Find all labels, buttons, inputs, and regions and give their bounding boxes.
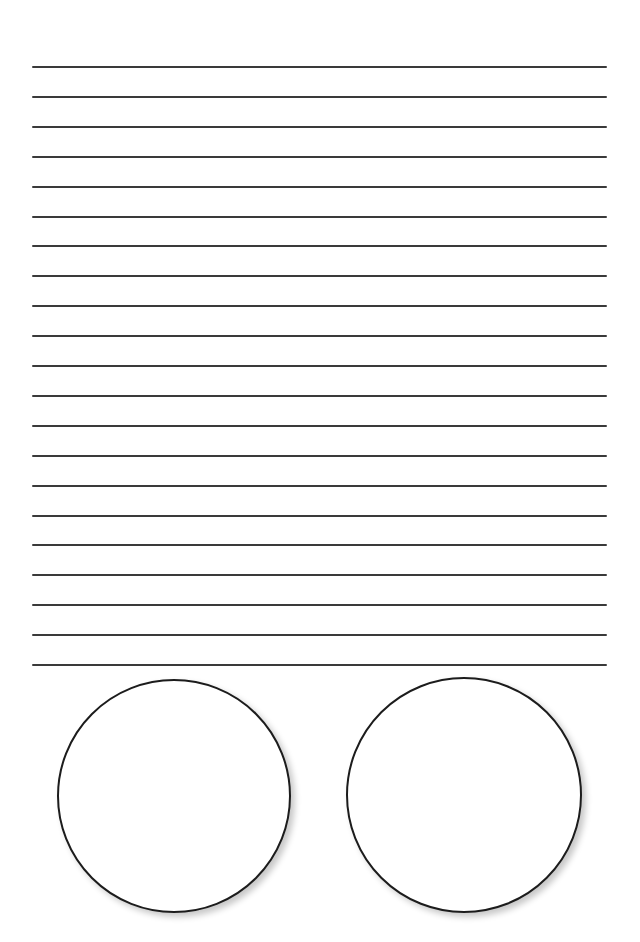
ruled-line xyxy=(32,664,607,666)
ruled-line xyxy=(32,275,607,277)
ruled-line xyxy=(32,156,607,158)
ruled-line xyxy=(32,574,607,576)
ruled-line xyxy=(32,395,607,397)
ruled-line xyxy=(32,485,607,487)
ruled-line xyxy=(32,96,607,98)
ruled-line xyxy=(32,365,607,367)
ruled-line xyxy=(32,604,607,606)
ruled-line xyxy=(32,305,607,307)
ruled-line xyxy=(32,455,607,457)
drawing-circle-1 xyxy=(57,679,291,913)
ruled-line xyxy=(32,425,607,427)
drawing-circle-2 xyxy=(346,677,582,913)
ruled-line xyxy=(32,66,607,68)
ruled-line xyxy=(32,216,607,218)
ruled-line xyxy=(32,634,607,636)
ruled-line xyxy=(32,126,607,128)
ruled-line xyxy=(32,515,607,517)
ruled-line xyxy=(32,335,607,337)
writing-worksheet xyxy=(0,0,640,942)
ruled-line xyxy=(32,544,607,546)
ruled-line xyxy=(32,245,607,247)
ruled-line xyxy=(32,186,607,188)
